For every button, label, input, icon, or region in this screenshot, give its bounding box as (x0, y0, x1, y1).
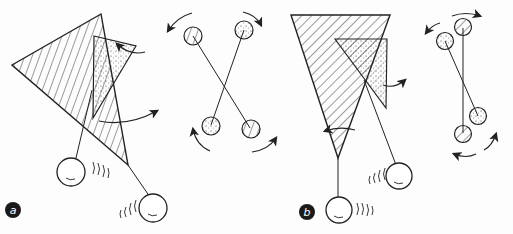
rotation-arrow-icon (454, 154, 476, 157)
hatched-bob (455, 19, 472, 36)
motion-lines-icon (357, 168, 385, 216)
crossed-rod (193, 36, 250, 128)
rotation-arrow-icon (252, 138, 276, 152)
stippled-bob (437, 33, 454, 50)
pendulum-bob (386, 163, 412, 189)
stippled-bob (235, 21, 253, 39)
panel-a: a (5, 12, 276, 222)
slanted-rod (445, 41, 478, 116)
pendulum-bob (139, 194, 167, 222)
panel-label-b: b (299, 204, 315, 220)
rotation-arrow-icon (426, 23, 440, 33)
hatched-bob (184, 27, 202, 45)
rotation-arrow-icon (452, 14, 480, 17)
panel-label-text: a (10, 204, 17, 217)
panel-label-text: b (304, 206, 311, 219)
panel-b: b (291, 14, 496, 224)
rotation-arrow-icon (484, 134, 496, 150)
diagram-svg: a b (0, 0, 513, 234)
stippled-bob (202, 117, 220, 135)
hatched-bob (455, 126, 472, 143)
diagram-canvas: a b (0, 0, 513, 234)
hatched-bob (242, 120, 260, 138)
stippled-bob (470, 108, 487, 125)
pendulum-bob (57, 158, 85, 186)
hatched-triangle-a (12, 14, 128, 165)
panel-label-a: a (5, 202, 21, 218)
motion-lines-icon (93, 162, 136, 218)
pendulum-bob (326, 197, 352, 223)
